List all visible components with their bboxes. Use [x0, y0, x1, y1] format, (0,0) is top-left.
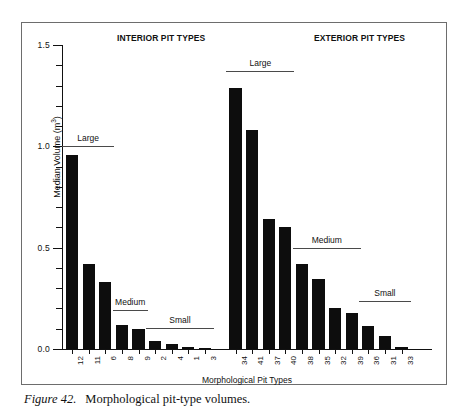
bar: [99, 282, 111, 349]
x-category-label: 38: [306, 356, 315, 365]
x-category-label: 8: [126, 356, 135, 360]
x-category-label: 40: [289, 356, 298, 365]
bar: [199, 348, 211, 349]
bar: [182, 347, 194, 349]
x-category-label: 9: [143, 356, 152, 360]
bar: [116, 325, 128, 349]
x-category-label: 11: [93, 356, 102, 364]
y-tick-minor: [56, 288, 62, 289]
y-tick-major: [53, 248, 62, 249]
y-tick-label: 0.5: [38, 243, 50, 253]
group-bracket-line: [113, 310, 148, 311]
bar: [83, 264, 95, 349]
x-tick: [252, 349, 253, 354]
y-axis-title-exponent: 3: [50, 119, 57, 123]
group-bracket-line: [226, 71, 294, 72]
x-category-label: 4: [176, 356, 185, 360]
x-tick: [236, 349, 237, 354]
group-bracket-label: Medium: [312, 235, 342, 245]
x-tick: [368, 349, 369, 354]
x-tick: [302, 349, 303, 354]
group-bracket-label: Medium: [115, 297, 145, 307]
group-bracket-line: [146, 328, 214, 329]
group-bracket-label: Small: [374, 288, 395, 298]
x-category-label: 32: [339, 356, 348, 365]
group-bracket-label: Large: [250, 58, 272, 68]
x-tick: [402, 349, 403, 354]
y-tick-minor: [56, 268, 62, 269]
bar: [379, 336, 391, 349]
bar: [312, 279, 324, 349]
y-tick-minor: [56, 227, 62, 228]
bar: [362, 326, 374, 349]
bar: [346, 313, 358, 349]
y-tick-minor: [56, 329, 62, 330]
group-bracket-label: Large: [77, 133, 99, 143]
bar: [263, 219, 275, 349]
x-category-label: 33: [406, 356, 415, 365]
y-tick-minor: [56, 308, 62, 309]
x-tick: [72, 349, 73, 354]
figure-caption: Figure 42.Morphological pit-type volumes…: [24, 392, 250, 407]
y-axis-line: [62, 45, 63, 350]
figure-caption-text: Morphological pit-type volumes.: [85, 392, 250, 406]
x-tick: [205, 349, 206, 354]
group-bracket-line: [293, 248, 361, 249]
x-category-label: 35: [323, 356, 332, 365]
x-tick: [172, 349, 173, 354]
x-tick: [385, 349, 386, 354]
bar: [66, 155, 78, 349]
x-category-label: 39: [356, 356, 365, 365]
group-bracket-line: [359, 301, 410, 302]
y-axis-title: Median Volume (m3): [50, 87, 62, 227]
x-axis-title: Morphological Pit Types: [62, 375, 432, 385]
x-category-label: 41: [256, 356, 265, 365]
bar: [395, 347, 407, 349]
y-tick-label: 0.0: [38, 344, 50, 354]
x-category-label: 3: [209, 356, 218, 360]
y-tick-minor: [56, 65, 62, 66]
x-tick: [269, 349, 270, 354]
x-category-label: 37: [273, 356, 282, 365]
group-bracket-line: [62, 146, 114, 147]
x-tick: [335, 349, 336, 354]
figure-root: INTERIOR PIT TYPES EXTERIOR PIT TYPES 0.…: [0, 0, 465, 417]
y-tick-label: 1.5: [38, 40, 50, 50]
section-title-interior: INTERIOR PIT TYPES: [117, 33, 205, 43]
x-tick: [352, 349, 353, 354]
chart-frame: INTERIOR PIT TYPES EXTERIOR PIT TYPES 0.…: [21, 22, 447, 385]
x-tick: [105, 349, 106, 354]
bar: [329, 308, 341, 349]
x-tick: [89, 349, 90, 354]
y-tick-label: 1.0: [38, 141, 50, 151]
bar: [296, 264, 308, 349]
y-tick-major: [53, 349, 62, 350]
bar: [166, 344, 178, 349]
x-category-label: 12: [76, 356, 85, 365]
x-tick: [188, 349, 189, 354]
x-category-label: 36: [372, 356, 381, 365]
x-tick: [285, 349, 286, 354]
x-tick: [139, 349, 140, 354]
plot-area: INTERIOR PIT TYPES EXTERIOR PIT TYPES 0.…: [22, 23, 446, 384]
bar: [149, 341, 161, 349]
x-tick: [319, 349, 320, 354]
x-axis-line: [62, 349, 432, 350]
bar: [132, 329, 144, 349]
y-axis-title-close: ): [52, 116, 62, 119]
x-tick: [155, 349, 156, 354]
figure-number: Figure 42.: [24, 392, 76, 406]
section-title-exterior: EXTERIOR PIT TYPES: [314, 33, 405, 43]
bar: [246, 130, 258, 349]
bar: [279, 227, 291, 349]
x-category-label: 34: [240, 356, 249, 365]
y-tick-major: [53, 45, 62, 46]
x-category-label: 2: [159, 356, 168, 360]
x-category-label: 31: [389, 356, 398, 365]
x-category-label: 1: [192, 356, 201, 360]
bar: [229, 88, 241, 349]
x-category-label: 6: [109, 356, 118, 360]
y-axis-title-base: Median Volume (m: [52, 123, 62, 198]
group-bracket-label: Small: [169, 315, 190, 325]
x-tick: [122, 349, 123, 354]
